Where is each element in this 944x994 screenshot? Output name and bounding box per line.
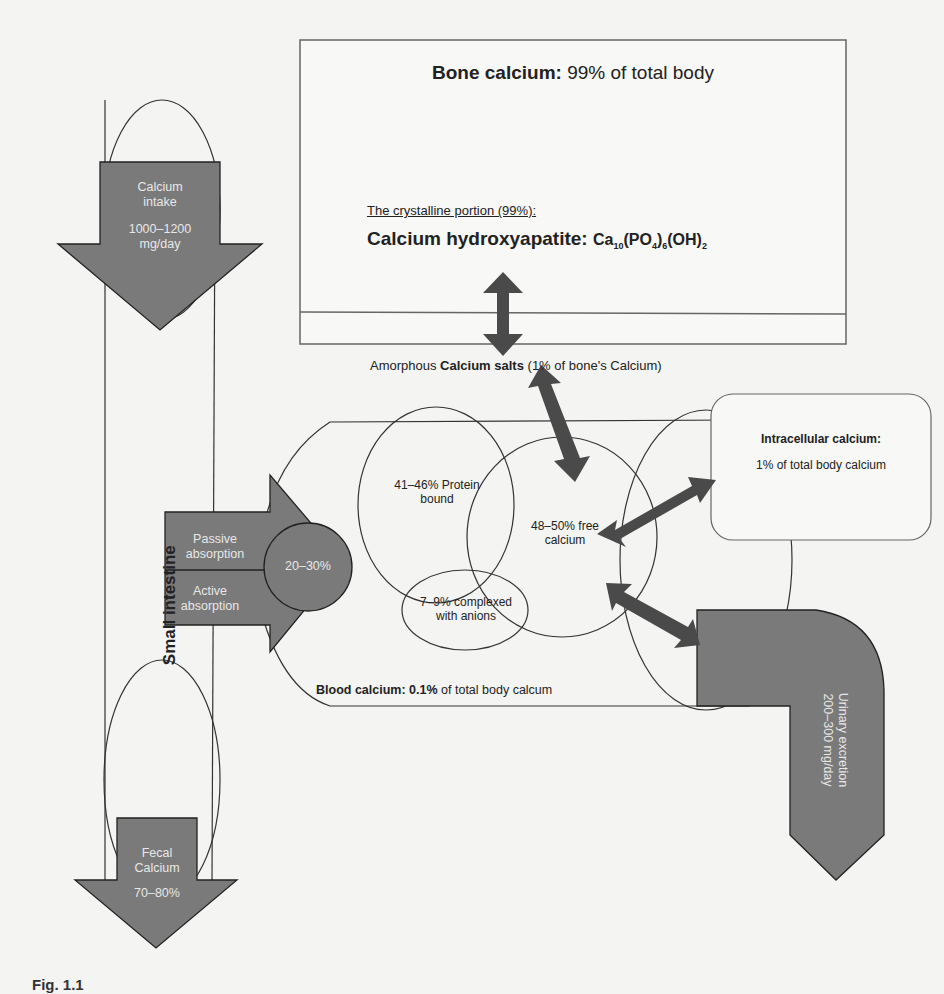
passive-absorption-label: Passive absorption [165, 532, 265, 562]
intracellular-label: Intracellular calcium: 1% of total body … [711, 432, 931, 473]
urinary-arrow [697, 610, 884, 880]
hydroxyapatite-label: Calcium hydroxyapatite: Ca10(PO4)6(OH)2 [367, 228, 707, 252]
urinary-label: Urinary excretion 200–300 mg/day [820, 665, 850, 815]
bone-box [300, 40, 846, 344]
figure-caption: Fig. 1.1 [32, 976, 84, 994]
amorphous-free-arrow-icon [528, 365, 590, 482]
free-calcium-label: 48–50% free calcium [500, 519, 630, 548]
complexed-label: 7–9% complexed with anions [402, 595, 530, 624]
bone-title: Bone calcium: 99% of total body [300, 62, 846, 85]
crystalline-label: The crystalline portion (99%): [367, 203, 536, 219]
active-absorption-label: Active absorption [160, 584, 260, 614]
intake-label: Calcium intake 1000–1200 mg/day [100, 180, 220, 252]
protein-bound-label: 41–46% Protein bound [372, 478, 502, 507]
blood-calcium-label: Blood calcium: 0.1% of total body calcum [316, 683, 552, 698]
fecal-label: Fecal Calcium 70–80% [107, 846, 207, 901]
amorphous-label: Amorphous Calcium salts (1% of bone's Ca… [300, 358, 846, 374]
hydroxyapatite-formula: Ca10(PO4)6(OH)2 [593, 231, 707, 248]
absorption-pct: 20–30% [266, 559, 350, 574]
